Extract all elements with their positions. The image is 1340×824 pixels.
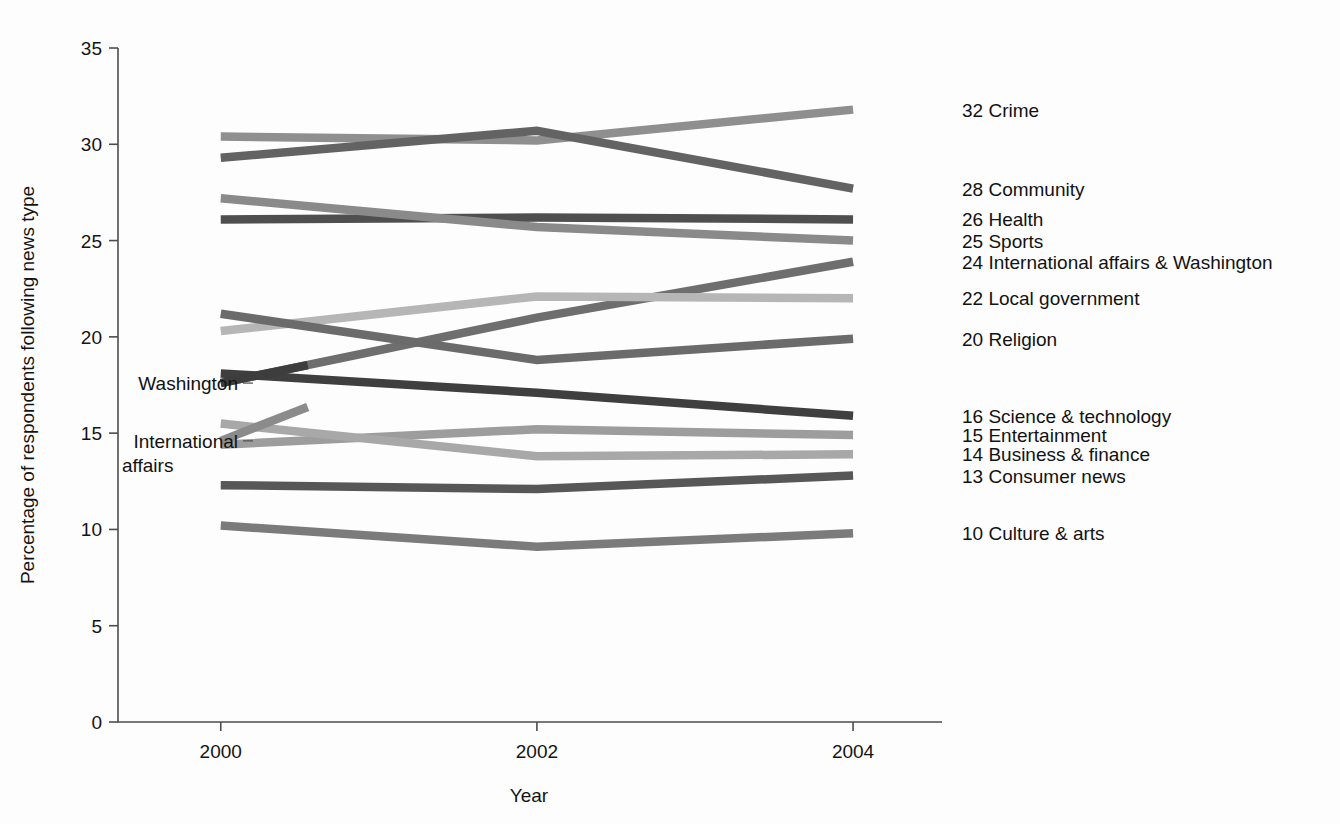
axes: 05101520253035200020022004 bbox=[81, 38, 942, 762]
y-tick-label: 35 bbox=[81, 38, 102, 59]
series-end-label: 20 Religion bbox=[962, 329, 1057, 350]
data-lines bbox=[221, 110, 853, 547]
chart-page: 05101520253035200020022004 WashingtonInt… bbox=[0, 0, 1340, 824]
series-end-label: 10 Culture & arts bbox=[962, 523, 1105, 544]
y-tick-label: 30 bbox=[81, 134, 102, 155]
y-tick-label: 20 bbox=[81, 327, 102, 348]
series-line bbox=[221, 110, 853, 141]
annotation-label-washington: Washington bbox=[138, 373, 238, 394]
annotation-label-international-affairs: International bbox=[133, 431, 238, 452]
y-tick-label: 10 bbox=[81, 519, 102, 540]
series-end-labels: 32 Crime28 Community26 Health25 Sports24… bbox=[962, 100, 1273, 545]
series-end-label: 32 Crime bbox=[962, 100, 1039, 121]
x-axis-title: Year bbox=[510, 785, 549, 806]
annotation-label-international-affairs-line2: affairs bbox=[122, 455, 173, 476]
x-tick-label: 2002 bbox=[516, 741, 558, 762]
series-end-label: 26 Health bbox=[962, 209, 1043, 230]
y-tick-label: 5 bbox=[91, 616, 102, 637]
y-tick-label: 0 bbox=[91, 712, 102, 733]
series-line bbox=[221, 217, 853, 219]
series-end-label: 28 Community bbox=[962, 179, 1085, 200]
annotations: WashingtonInternationalaffairs bbox=[122, 365, 308, 476]
y-tick-label: 15 bbox=[81, 423, 102, 444]
series-end-label: 15 Entertainment bbox=[962, 425, 1107, 446]
series-end-label: 25 Sports bbox=[962, 231, 1043, 252]
y-axis-title: Percentage of respondents following news… bbox=[17, 186, 38, 584]
x-tick-label: 2004 bbox=[832, 741, 875, 762]
series-end-label: 24 International affairs & Washington bbox=[962, 252, 1273, 273]
line-chart: 05101520253035200020022004 WashingtonInt… bbox=[0, 0, 1340, 824]
x-tick-label: 2000 bbox=[200, 741, 242, 762]
series-line bbox=[221, 526, 853, 547]
series-end-label: 16 Science & technology bbox=[962, 406, 1172, 427]
series-end-label: 14 Business & finance bbox=[962, 444, 1150, 465]
series-end-label: 22 Local government bbox=[962, 288, 1140, 309]
y-tick-label: 25 bbox=[81, 231, 102, 252]
series-end-label: 13 Consumer news bbox=[962, 466, 1126, 487]
series-line bbox=[221, 476, 853, 489]
series-line bbox=[221, 373, 853, 415]
